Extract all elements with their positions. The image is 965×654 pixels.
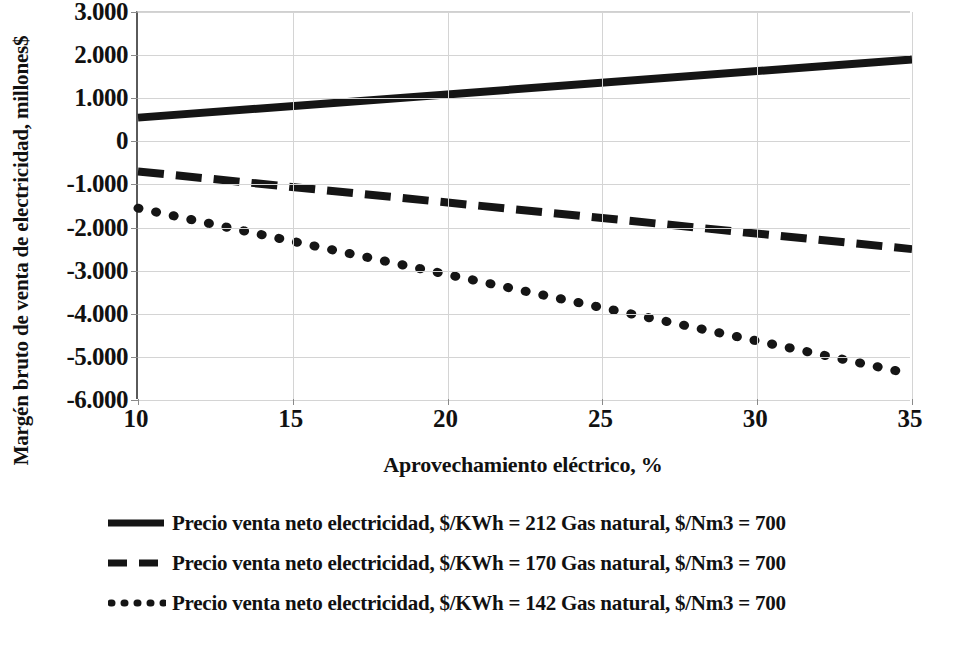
- y-tick-mark: [131, 314, 138, 315]
- y-tick-label: 1.000: [2, 85, 128, 110]
- y-tick-mark: [131, 12, 138, 13]
- y-tick-mark: [131, 55, 138, 56]
- y-gridline: [138, 228, 910, 229]
- x-tick-label: 35: [898, 406, 923, 431]
- y-tick-label: 2.000: [2, 42, 128, 67]
- x-gridline: [757, 12, 758, 399]
- legend-swatch-dotted-icon: [108, 593, 166, 613]
- y-tick-label: -4.000: [2, 300, 128, 325]
- y-tick-mark: [131, 357, 138, 358]
- legend-label: Precio venta neto electricidad, $/KWh = …: [172, 593, 786, 614]
- y-tick-mark: [131, 141, 138, 142]
- legend-label: Precio venta neto electricidad, $/KWh = …: [172, 513, 786, 534]
- y-gridline: [138, 98, 910, 99]
- plot-area: [136, 11, 910, 399]
- series-line-2: [138, 172, 912, 250]
- chart-legend: Precio venta neto electricidad, $/KWh = …: [108, 503, 958, 623]
- y-tick-label: -5.000: [2, 343, 128, 368]
- x-tick-label: 10: [124, 406, 149, 431]
- y-tick-label: -3.000: [2, 257, 128, 282]
- y-tick-label: -6.000: [2, 387, 128, 412]
- legend-label: Precio venta neto electricidad, $/KWh = …: [172, 553, 786, 574]
- legend-swatch-dashed-icon: [108, 553, 166, 573]
- y-gridline: [138, 314, 910, 315]
- y-tick-mark: [131, 98, 138, 99]
- y-gridline: [138, 55, 910, 56]
- legend-swatch-solid-icon: [108, 513, 166, 533]
- y-tick-label: 3.000: [2, 0, 128, 24]
- legend-item-1[interactable]: Precio venta neto electricidad, $/KWh = …: [108, 503, 958, 543]
- y-tick-mark: [131, 184, 138, 185]
- y-axis-tick-labels: 3.0002.0001.0000-1.000-2.000-3.000-4.000…: [0, 0, 128, 440]
- y-gridline: [138, 271, 910, 272]
- x-gridline: [602, 12, 603, 399]
- y-gridline: [138, 184, 910, 185]
- x-tick-label: 20: [433, 406, 458, 431]
- y-tick-mark: [131, 271, 138, 272]
- series-line-1: [138, 59, 912, 117]
- series-line-3: [138, 208, 912, 374]
- y-tick-mark: [131, 400, 138, 401]
- y-gridline: [138, 141, 910, 142]
- y-gridline: [138, 357, 910, 358]
- x-axis-tick-labels: 101520253035: [136, 406, 910, 446]
- x-gridline: [293, 12, 294, 399]
- chart-figure: Margén bruto de venta de electricidad, m…: [0, 0, 965, 654]
- x-tick-label: 15: [278, 406, 303, 431]
- y-tick-mark: [131, 228, 138, 229]
- legend-item-2[interactable]: Precio venta neto electricidad, $/KWh = …: [108, 543, 958, 583]
- x-tick-label: 25: [588, 406, 613, 431]
- y-tick-label: 0: [2, 128, 128, 153]
- y-tick-label: -1.000: [2, 171, 128, 196]
- y-gridline: [138, 12, 910, 13]
- y-tick-label: -2.000: [2, 214, 128, 239]
- x-gridline: [912, 12, 913, 399]
- y-gridline: [138, 400, 910, 401]
- series-lines: [138, 12, 912, 400]
- x-gridline: [448, 12, 449, 399]
- legend-item-3[interactable]: Precio venta neto electricidad, $/KWh = …: [108, 583, 958, 623]
- x-tick-label: 30: [743, 406, 768, 431]
- x-axis-title: Aprovechamiento eléctrico, %: [136, 452, 910, 478]
